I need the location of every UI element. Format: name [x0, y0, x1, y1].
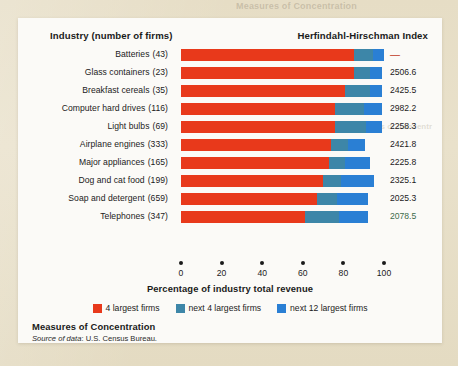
bar-segment-top4	[181, 193, 317, 205]
row-value-hhi: 2425.5	[390, 85, 440, 95]
bar-segment-next12	[348, 139, 364, 151]
stacked-bar	[181, 193, 384, 205]
source-label: Source of data	[32, 334, 81, 343]
bar-segment-next12	[337, 193, 367, 205]
bar-segment-next12	[373, 49, 384, 61]
bar-segment-next4	[317, 193, 337, 205]
column-header-hhi: Herfindahl-Hirschman Index	[297, 30, 428, 41]
firm-count: (659)	[148, 193, 168, 203]
bar-segment-next12	[345, 157, 369, 169]
industry-name: Airplane engines	[80, 139, 145, 149]
row-label-industry: Major appliances(165)	[18, 157, 168, 167]
bar-segment-top4	[181, 121, 335, 133]
bar-segment-top4	[181, 211, 305, 223]
chart-row: Light bulbs(69)2258.3	[18, 118, 442, 136]
legend-item: 4 largest firms	[93, 303, 160, 313]
chart-row: Glass containers(23)2506.6	[18, 64, 442, 82]
firm-count: (43)	[153, 49, 168, 59]
legend-swatch-icon	[277, 304, 286, 313]
firm-count: (116)	[148, 103, 168, 113]
bar-segment-next4	[354, 67, 370, 79]
bar-segment-next4	[331, 139, 348, 151]
chart-row: Airplane engines(333)2421.8	[18, 136, 442, 154]
bar-segment-top4	[181, 49, 354, 61]
legend-item: next 12 largest firms	[277, 303, 367, 313]
row-label-industry: Airplane engines(333)	[18, 139, 168, 149]
bar-segment-next4	[354, 49, 373, 61]
chart-row: Breakfast cereals(35)2425.5	[18, 82, 442, 100]
row-label-industry: Computer hard drives(116)	[18, 103, 168, 113]
axis-tick-mark	[382, 261, 386, 265]
stacked-bar	[181, 67, 384, 79]
stacked-bar	[181, 211, 384, 223]
row-value-hhi: 2982.2	[390, 103, 440, 113]
chart-plot-area: Batteries(43)—Glass containers(23)2506.6…	[18, 46, 442, 226]
bar-segment-next12	[370, 67, 382, 79]
row-label-industry: Light bulbs(69)	[18, 121, 168, 131]
bar-segment-top4	[181, 139, 331, 151]
bar-segment-next4	[323, 175, 341, 187]
stacked-bar	[181, 139, 384, 151]
stacked-bar	[181, 157, 384, 169]
row-value-hhi: 2421.8	[390, 139, 440, 149]
bar-segment-next12	[364, 103, 382, 115]
axis-tick-mark	[220, 261, 224, 265]
legend-swatch-icon	[93, 304, 102, 313]
bar-segment-top4	[181, 103, 335, 115]
row-label-industry: Dog and cat food(199)	[18, 175, 168, 185]
bar-segment-top4	[181, 175, 323, 187]
row-value-hhi: 2325.1	[390, 175, 440, 185]
axis-tick-label: 0	[179, 268, 184, 278]
firm-count: (23)	[153, 67, 168, 77]
industry-name: Light bulbs	[107, 121, 149, 131]
chart-row: Telephones(347)2078.5	[18, 208, 442, 226]
bar-segment-top4	[181, 85, 345, 97]
legend-swatch-icon	[176, 304, 185, 313]
bar-segment-next4	[329, 157, 345, 169]
axis-tick-label: 100	[377, 268, 391, 278]
legend-label: next 4 largest firms	[189, 303, 262, 313]
industry-name: Major appliances	[79, 157, 145, 167]
legend-label: next 12 largest firms	[290, 303, 367, 313]
bar-segment-next4	[305, 211, 340, 223]
row-value-hhi: 2225.8	[390, 157, 440, 167]
x-axis-label: Percentage of industry total revenue	[18, 283, 442, 294]
figure-title: Measures of Concentration	[32, 321, 157, 332]
firm-count: (69)	[153, 121, 168, 131]
legend-item: next 4 largest firms	[176, 303, 262, 313]
industry-name: Batteries	[115, 49, 149, 59]
legend-label: 4 largest firms	[106, 303, 160, 313]
figure-source: Source of data: U.S. Census Bureau.	[32, 334, 157, 343]
bar-segment-next12	[366, 121, 382, 133]
industry-name: Telephones	[100, 211, 144, 221]
bar-segment-next12	[339, 211, 367, 223]
column-header-industry: Industry (number of firms)	[50, 30, 173, 41]
bar-segment-top4	[181, 157, 329, 169]
axis-tick-label: 60	[298, 268, 308, 278]
chart-row: Soap and detergent(659)2025.3	[18, 190, 442, 208]
bar-segment-next4	[345, 85, 369, 97]
row-value-hhi: —	[390, 49, 440, 60]
bar-segment-next12	[341, 175, 373, 187]
row-label-industry: Telephones(347)	[18, 211, 168, 221]
source-value: : U.S. Census Bureau.	[81, 334, 157, 343]
industry-name: Soap and detergent	[68, 193, 144, 203]
chart-row: Computer hard drives(116)2982.2	[18, 100, 442, 118]
firm-count: (35)	[153, 85, 168, 95]
figure-card: Measures of Concentr Industry (number of…	[18, 18, 442, 343]
axis-tick-label: 20	[217, 268, 227, 278]
row-value-hhi: 2258.3	[390, 121, 440, 131]
bar-segment-next12	[370, 85, 382, 97]
axis-tick-label: 80	[339, 268, 349, 278]
firm-count: (347)	[148, 211, 168, 221]
industry-name: Breakfast cereals	[82, 85, 149, 95]
row-label-industry: Batteries(43)	[18, 49, 168, 59]
chart-row: Batteries(43)—	[18, 46, 442, 64]
stacked-bar	[181, 49, 384, 61]
bar-segment-next4	[335, 121, 365, 133]
row-value-hhi: 2025.3	[390, 193, 440, 203]
figure-footer: Measures of Concentration Source of data…	[32, 321, 157, 343]
stacked-bar	[181, 103, 384, 115]
bar-segment-top4	[181, 67, 354, 79]
chart-legend: 4 largest firmsnext 4 largest firmsnext …	[18, 303, 442, 313]
